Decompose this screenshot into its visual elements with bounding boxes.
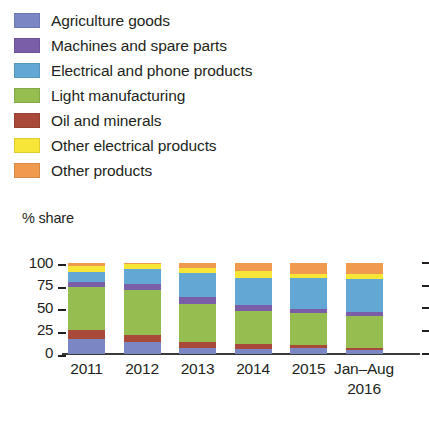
bar-segment (68, 287, 105, 330)
legend-item-label: Oil and minerals (51, 112, 161, 129)
bar-segment (124, 335, 161, 342)
bar-segment (235, 349, 272, 354)
legend-item-electrical-and-phone-products: Electrical and phone products (14, 58, 414, 83)
legend-item-machines-and-spare-parts: Machines and spare parts (14, 33, 414, 58)
bar-2013 (179, 263, 216, 353)
bar-segment (346, 263, 383, 274)
bar-segment (346, 350, 383, 354)
legend-item-label: Other products (51, 162, 152, 179)
legend-item-label: Agriculture goods (51, 12, 170, 29)
bar-segment (68, 272, 105, 282)
bar-segment (346, 279, 383, 312)
bar-segment (124, 290, 161, 334)
y-axis-tick-mark-right (422, 262, 429, 264)
color-swatch-icon (14, 138, 40, 153)
bar-segment (290, 348, 327, 353)
bar-2014 (235, 263, 272, 353)
legend-item-oil-and-minerals: Oil and minerals (14, 108, 414, 133)
legend-item-agriculture-goods: Agriculture goods (14, 8, 414, 33)
color-swatch-icon (14, 113, 40, 128)
color-swatch-icon (14, 88, 40, 103)
stacked-bar-chart: % share 1007550250 20112012201320142015J… (0, 200, 429, 426)
y-axis-tick-mark-right (422, 330, 429, 332)
bar-segment (290, 263, 327, 274)
color-swatch-icon (14, 63, 40, 78)
bar-segment (68, 330, 105, 339)
y-axis-tick-mark-right (422, 353, 429, 355)
bar-segment (290, 313, 327, 346)
legend-item-label: Light manufacturing (51, 87, 185, 104)
bar-segment (179, 273, 216, 297)
bar-segment (124, 269, 161, 283)
color-swatch-icon (14, 163, 40, 178)
legend-item-other-electrical-products: Other electrical products (14, 133, 414, 158)
bar-segment (179, 348, 216, 353)
bar-2012 (124, 263, 161, 353)
bar-segment (235, 263, 272, 271)
bar-2015 (290, 263, 327, 353)
chart-legend: Agriculture goods Machines and spare par… (14, 8, 414, 183)
y-axis-tick-mark-right (422, 307, 429, 309)
legend-item-light-manufacturing: Light manufacturing (14, 83, 414, 108)
color-swatch-icon (14, 38, 40, 53)
bar-segment (235, 278, 272, 305)
plot-area: 20112012201320142015Jan–Aug2016 (0, 200, 429, 426)
bar-jan-aug-2016 (346, 263, 383, 353)
bar-2011 (68, 263, 105, 353)
legend-item-label: Electrical and phone products (51, 62, 252, 79)
y-axis-tick-mark-right (422, 285, 429, 287)
bar-segment (235, 311, 272, 344)
legend-item-label: Other electrical products (51, 137, 217, 154)
bar-segment (124, 342, 161, 354)
bar-segment (179, 304, 216, 342)
legend-item-label: Machines and spare parts (51, 37, 227, 54)
bar-segment (290, 278, 327, 309)
bar-segment (68, 339, 105, 353)
legend-item-other-products: Other products (14, 158, 414, 183)
color-swatch-icon (14, 13, 40, 28)
bar-segment (346, 316, 383, 349)
x-axis-label: Jan–Aug2016 (327, 360, 401, 398)
